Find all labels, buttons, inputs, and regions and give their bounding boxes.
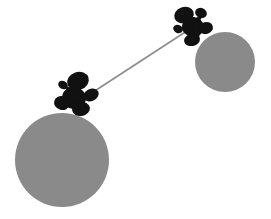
small-sphere <box>195 32 255 92</box>
image-canvas <box>0 0 271 219</box>
scene-svg <box>0 0 271 219</box>
large-sphere <box>15 113 109 207</box>
